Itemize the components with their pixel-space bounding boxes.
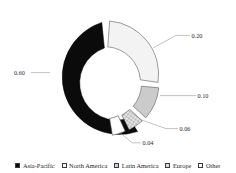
legend-swatch-icon — [62, 163, 67, 168]
legend-label: Europe — [173, 163, 191, 169]
legend-item-asia-pacific[interactable]: Asia-Pacific — [15, 163, 54, 169]
legend-label: North America — [69, 163, 107, 169]
value-label-latin-america: 0.10 — [198, 92, 209, 99]
legend-item-other[interactable]: Other — [198, 163, 220, 169]
leader-line-north-america — [153, 35, 190, 48]
donut-chart-svg: 0.60 0.20 0.10 0.06 0.04 — [0, 0, 236, 152]
value-label-europe: 0.06 — [180, 125, 191, 132]
chart-legend: Asia-Pacific North America Latin America… — [0, 163, 236, 169]
legend-item-europe[interactable]: Europe — [165, 163, 191, 169]
legend-label: Asia-Pacific — [23, 163, 55, 169]
legend-item-latin-america[interactable]: Latin America — [114, 163, 158, 169]
value-label-other: 0.04 — [143, 139, 154, 146]
slice-latin-america[interactable] — [133, 86, 159, 118]
leader-line-europe — [140, 120, 178, 129]
value-label-north-america: 0.20 — [192, 32, 203, 39]
slice-north-america[interactable] — [108, 21, 159, 82]
legend-swatch-icon — [15, 163, 20, 168]
value-label-asia-pacific: 0.60 — [14, 69, 25, 76]
legend-label: Latin America — [122, 163, 159, 169]
donut-chart: 0.60 0.20 0.10 0.06 0.04 Asia-Pacific No… — [0, 0, 236, 173]
slice-other[interactable] — [110, 116, 126, 135]
legend-swatch-icon — [114, 163, 119, 168]
legend-label: Other — [206, 163, 221, 169]
legend-item-north-america[interactable]: North America — [62, 163, 108, 169]
legend-swatch-icon — [198, 163, 203, 168]
legend-swatch-icon — [165, 163, 170, 168]
